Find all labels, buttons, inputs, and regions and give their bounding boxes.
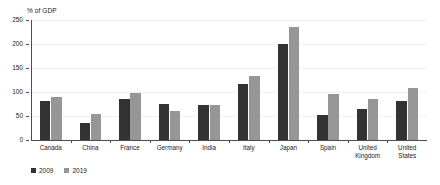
bar [159,104,170,140]
bar-group [396,20,418,140]
bar [198,105,209,140]
bar-group [317,20,339,140]
category-label: India [189,144,229,152]
bar [170,111,181,140]
bar-group [40,20,62,140]
bar [396,101,407,140]
category-label: United States [387,144,427,159]
bar [51,97,62,140]
bar [357,109,368,140]
plot-area [31,20,427,140]
x-tick-mark [189,140,190,143]
bar [289,27,300,140]
legend: 20092019 [31,167,87,174]
bar-group [238,20,260,140]
legend-swatch [64,168,69,173]
y-tick-label: 150 [0,64,23,72]
y-tick-mark [26,92,29,93]
x-tick-mark [387,140,388,143]
x-tick-mark [269,140,270,143]
bar [130,93,141,140]
x-tick-mark [71,140,72,143]
category-label: China [71,144,111,152]
x-tick-mark [308,140,309,143]
y-tick-mark [26,44,29,45]
y-tick-mark [26,68,29,69]
bar [368,99,379,140]
y-tick-mark [26,116,29,117]
bar [249,76,260,140]
y-tick-label: 50 [0,112,23,120]
category-label: Spain [308,144,348,152]
bar [328,94,339,140]
y-tick-label: 0 [0,136,23,144]
y-axis-title: % of GDP [27,7,57,14]
category-label: France [110,144,150,152]
bar-chart: % of GDP 050100150200250 CanadaChinaFran… [0,0,440,185]
bar [80,123,91,140]
category-label: Germany [150,144,190,152]
legend-swatch [31,168,36,173]
category-label: United Kingdom [348,144,388,159]
legend-label: 2019 [72,167,86,174]
bar [408,88,419,140]
legend-item[interactable]: 2019 [64,167,86,174]
bar-group [159,20,181,140]
x-tick-mark [348,140,349,143]
y-tick-label: 200 [0,40,23,48]
bar [40,101,51,140]
category-label: Italy [229,144,269,152]
bar [317,115,328,140]
bar [278,44,289,140]
y-tick-label: 250 [0,16,23,24]
x-tick-mark [110,140,111,143]
bar-group [198,20,220,140]
x-tick-mark [150,140,151,143]
category-label: Japan [269,144,309,152]
y-tick-label: 100 [0,88,23,96]
x-tick-mark [229,140,230,143]
y-tick-mark [26,20,29,21]
category-label: Canada [31,144,71,152]
bar-group [119,20,141,140]
y-axis-line [31,20,32,140]
bar [91,114,102,140]
bar-group [80,20,102,140]
bar-group [278,20,300,140]
bar-group [357,20,379,140]
y-tick-mark [26,140,29,141]
legend-item[interactable]: 2009 [31,167,53,174]
bar [210,105,221,140]
legend-label: 2009 [39,167,53,174]
bar [119,99,130,140]
bar [238,84,249,140]
